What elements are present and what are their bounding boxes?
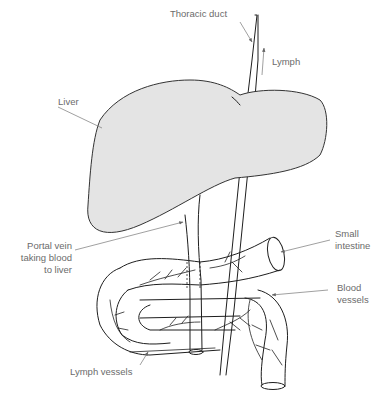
lymph-vessels-label: Lymph vessels <box>70 366 132 378</box>
blood-vessels-label-line1: Blood <box>337 282 369 294</box>
lymph-label: Lymph <box>272 56 300 68</box>
blood-vessels-label: Blood vessels <box>337 282 369 306</box>
thoracic-duct-label: Thoracic duct <box>170 8 227 20</box>
blood-vessels-label-line2: vessels <box>337 294 369 306</box>
portal-vein-label-line3: to liver <box>8 264 72 276</box>
portal-circulation-diagram <box>0 0 385 400</box>
thoracic-duct <box>220 15 258 375</box>
liver <box>88 80 327 232</box>
portal-vein-label-line1: Portal vein <box>8 240 72 252</box>
small-intestine-label-line1: Small <box>335 228 370 240</box>
blood-vessels <box>110 252 282 365</box>
liver-label: Liver <box>58 96 79 108</box>
portal-vein-label: Portal vein taking blood to liver <box>8 240 72 276</box>
small-intestine-label: Small intestine <box>335 228 370 252</box>
small-intestine-label-line2: intestine <box>335 240 370 252</box>
portal-vein-label-line2: taking blood <box>8 252 72 264</box>
